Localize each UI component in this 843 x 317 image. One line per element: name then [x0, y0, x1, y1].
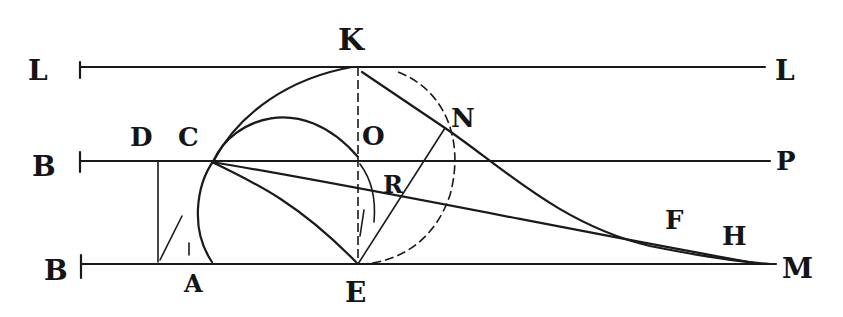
label-L-right: L: [775, 54, 795, 87]
label-H: H: [722, 221, 747, 251]
label-B-bottom: B: [44, 254, 68, 287]
label-L-left: L: [28, 54, 48, 87]
line-CE: [212, 162, 356, 262]
label-B-mid: B: [32, 150, 56, 183]
arc-small-CO: [214, 117, 358, 160]
label-E: E: [345, 276, 366, 309]
label-F: F: [665, 205, 684, 235]
label-D: D: [130, 122, 153, 152]
label-K: K: [338, 22, 365, 57]
label-C: C: [178, 122, 199, 152]
label-O: O: [362, 121, 385, 151]
geometric-figure: K L L B D C O N P R F H B M A E: [0, 0, 843, 317]
arc-inner-R: [360, 164, 374, 222]
diagram-canvas: K L L B D C O N P R F H B M A E: [0, 0, 843, 317]
label-N: N: [451, 103, 475, 133]
stroke-D-slant: [160, 216, 182, 260]
label-P: P: [776, 146, 796, 176]
label-R: R: [383, 170, 404, 199]
label-A: A: [183, 269, 203, 298]
label-M: M: [782, 252, 813, 285]
curve-KNM: [362, 72, 770, 264]
stroke-inner-1: [360, 210, 364, 236]
